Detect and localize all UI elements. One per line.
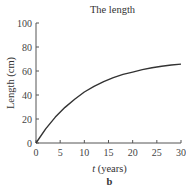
length-curve	[36, 64, 181, 143]
x-tick-label: 0	[34, 147, 39, 158]
x-tick-label: 5	[58, 147, 63, 158]
y-tick-label: 80	[22, 42, 32, 53]
y-tick-label: 20	[22, 114, 32, 125]
x-tick-label: 10	[79, 147, 89, 158]
chart: The length020406080100051015202530Length…	[0, 0, 186, 189]
panel-label: b	[107, 176, 113, 187]
x-tick-label: 30	[176, 147, 186, 158]
y-tick-label: 40	[22, 90, 32, 101]
chart-title: The length	[90, 4, 136, 15]
y-tick-label: 0	[27, 138, 32, 149]
y-tick-label: 100	[17, 18, 32, 29]
x-axis-label: t (years)	[92, 163, 127, 175]
y-axis-label: Length (cm)	[5, 56, 17, 109]
y-tick-label: 60	[22, 66, 32, 77]
x-tick-label: 15	[104, 147, 114, 158]
x-tick-label: 25	[152, 147, 162, 158]
x-tick-label: 20	[128, 147, 138, 158]
